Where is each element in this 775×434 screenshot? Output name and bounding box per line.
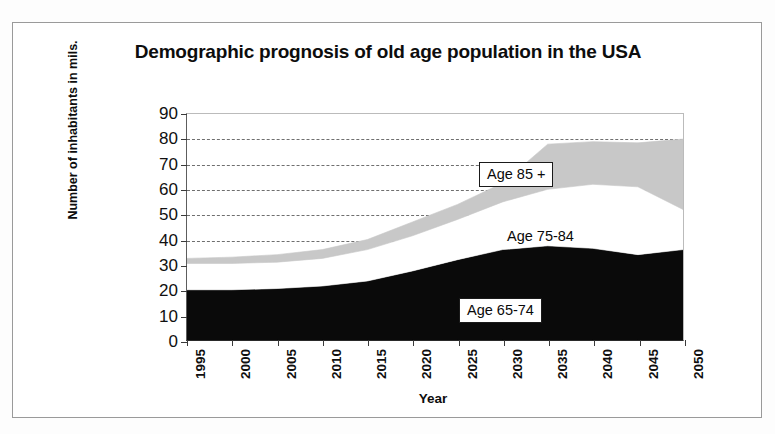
y-axis-tick-label: 90 (159, 104, 178, 124)
y-axis-tick-label: 0 (169, 332, 178, 352)
x-axis-tick (504, 340, 505, 346)
y-axis-tick (181, 291, 187, 292)
y-axis-tick (181, 139, 187, 140)
series-label-age-75-84: Age 75-84 (507, 227, 574, 245)
x-axis-tick (278, 340, 279, 346)
x-axis-tick (640, 340, 641, 346)
series-label-age-85-plus: Age 85 + (479, 162, 553, 187)
x-axis-tick-label: 2015 (374, 349, 389, 379)
x-axis-tick (549, 340, 550, 346)
x-axis-tick-label: 2035 (555, 349, 570, 379)
y-axis-tick-label: 10 (159, 307, 178, 327)
series-clip (187, 114, 683, 340)
y-axis-tick (181, 317, 187, 318)
y-axis-tick (181, 190, 187, 191)
x-axis-tick (323, 340, 324, 346)
x-axis-tick (459, 340, 460, 346)
x-axis-tick (232, 340, 233, 346)
y-axis-tick-label: 30 (159, 256, 178, 276)
x-axis-tick-label: 2045 (646, 349, 661, 379)
y-axis-tick-label: 70 (159, 155, 178, 175)
figure-frame: Demographic prognosis of old age populat… (12, 22, 762, 418)
y-axis-tick-label: 60 (159, 180, 178, 200)
x-axis-tick-label: 2025 (465, 349, 480, 379)
x-axis-tick (187, 340, 188, 346)
x-axis-tick (594, 340, 595, 346)
chart-title: Demographic prognosis of old age populat… (13, 41, 763, 63)
x-axis-tick-label: 2000 (238, 349, 253, 379)
page-canvas: Demographic prognosis of old age populat… (0, 0, 775, 434)
x-axis-tick (368, 340, 369, 346)
plot-area: 0102030405060708090 19952000200520102015… (186, 113, 684, 341)
x-axis-tick (413, 340, 414, 346)
stacked-area-series (187, 114, 683, 340)
x-axis-tick-label: 1995 (193, 349, 208, 379)
y-axis-tick-label: 80 (159, 129, 178, 149)
x-axis-title: Year (183, 391, 683, 406)
x-axis-tick-label: 2040 (600, 349, 615, 379)
x-axis-tick-label: 2020 (419, 349, 434, 379)
y-axis-tick (181, 215, 187, 216)
x-axis-tick-label: 2010 (329, 349, 344, 379)
x-axis-tick-label: 2030 (510, 349, 525, 379)
y-axis-tick (181, 266, 187, 267)
y-axis-tick-label: 20 (159, 281, 178, 301)
y-axis-tick (181, 165, 187, 166)
y-axis-tick (181, 241, 187, 242)
x-axis-tick (685, 340, 686, 346)
y-axis-tick (181, 114, 187, 115)
y-axis-title: Number of inhabitants in mils. (66, 15, 80, 245)
x-axis-tick-label: 2005 (284, 349, 299, 379)
y-axis-tick-label: 50 (159, 205, 178, 225)
x-axis-tick-label: 2050 (691, 349, 706, 379)
series-label-age-65-74: Age 65-74 (459, 298, 542, 323)
y-axis-tick-label: 40 (159, 231, 178, 251)
